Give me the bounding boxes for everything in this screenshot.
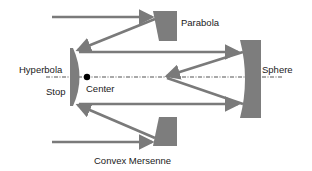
optical-diagram: Parabola Hyperbola Stop Center Sphere Co… xyxy=(0,0,312,171)
hyperbola-mirror xyxy=(70,48,80,106)
convex-mersenne-mirror xyxy=(153,117,177,146)
hyperbola-label: Hyperbola xyxy=(19,64,63,75)
sphere-mirror xyxy=(240,40,261,118)
center-point xyxy=(84,74,90,80)
ray-mersenne-to-hyperbola xyxy=(78,105,155,138)
ray-sphere-to-focus-bottom xyxy=(167,78,243,104)
convex-mersenne-label: Convex Mersenne xyxy=(94,155,171,166)
stop-label: Stop xyxy=(46,86,66,97)
ray-sphere-to-focus-top xyxy=(167,52,243,76)
center-label: Center xyxy=(86,83,115,94)
parabola-mirror xyxy=(153,11,177,41)
sphere-label: Sphere xyxy=(262,64,293,75)
parabola-label: Parabola xyxy=(181,17,220,28)
ray-parabola-to-hyperbola xyxy=(78,19,155,50)
